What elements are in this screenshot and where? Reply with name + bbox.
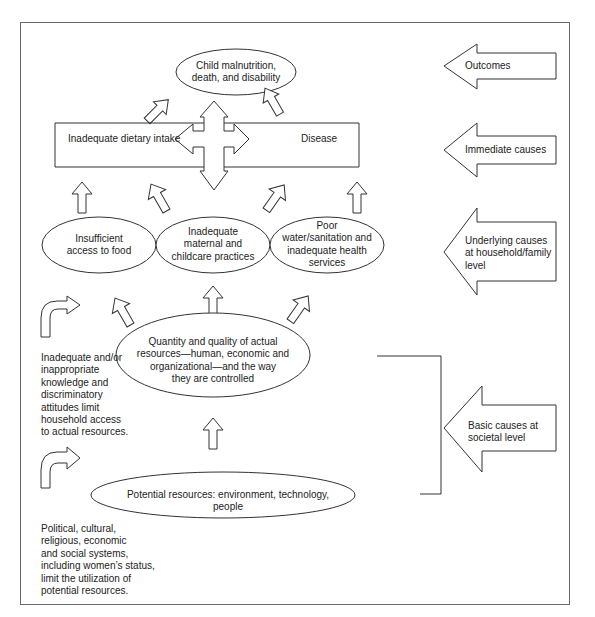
arrow-up-icon (347, 182, 367, 213)
arrow-up-right-icon (282, 290, 316, 327)
potential-resources-label: Potential resources: environment, techno… (113, 489, 343, 514)
curved-arrow-icon (41, 296, 80, 337)
arrow-up-right-icon (258, 179, 292, 216)
arrow-up-left-icon (142, 179, 175, 216)
level-label-outcomes: Outcomes (465, 60, 511, 72)
four-way-arrow-icon (175, 101, 249, 190)
arrow-up-icon (72, 182, 92, 213)
outcome-label: Child malnutrition, death, and disabilit… (176, 60, 296, 85)
level-label-underlying: Underlying causes at household/family le… (465, 235, 551, 272)
arrow-up-left-icon (106, 293, 139, 330)
arrow-up-icon (203, 418, 223, 449)
side-note-systems: Political, cultural, religious, economic… (41, 523, 155, 597)
underlying-health-label: Poor water/sanitation and inadequate hea… (267, 220, 387, 270)
arrow-up-right-icon (141, 93, 175, 127)
side-note-knowledge: Inadequate and/or inappropriate knowledg… (41, 352, 128, 439)
underlying-food-label: Insufficient access to food (44, 233, 154, 258)
underlying-care-label: Inadequate maternal and childcare practi… (158, 226, 268, 263)
immediate-left-label: Inadequate dietary intake (68, 133, 180, 145)
arrow-up-icon (203, 286, 223, 317)
level-label-immediate: Immediate causes (465, 144, 546, 156)
curved-arrow-icon (41, 447, 80, 488)
actual-resources-label: Quantity and quality of actual resources… (128, 336, 298, 386)
immediate-right-label: Disease (301, 133, 337, 145)
level-label-basic: Basic causes at societal level (468, 420, 538, 445)
basic-causes-bracket (377, 356, 441, 494)
